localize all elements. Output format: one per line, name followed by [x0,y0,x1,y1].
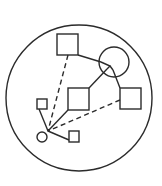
background [0,0,162,186]
network-diagram [0,0,162,186]
hub-point [47,130,49,132]
